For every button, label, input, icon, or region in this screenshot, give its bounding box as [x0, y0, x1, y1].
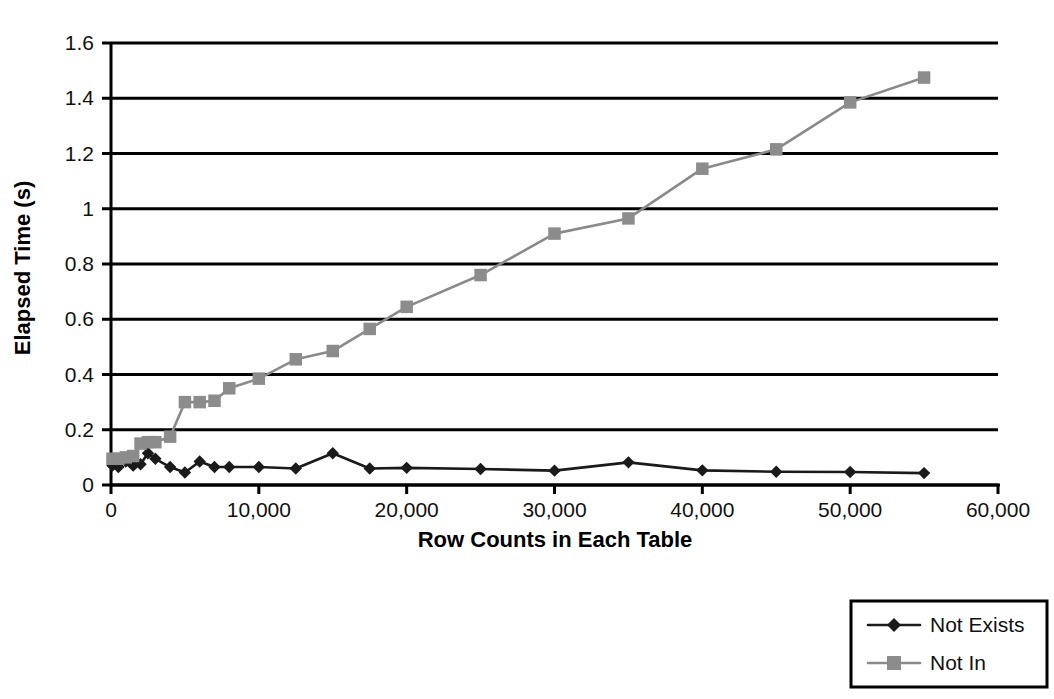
- x-tick-label: 50,000: [818, 498, 882, 521]
- x-tick-label: 30,000: [522, 498, 586, 521]
- x-tick-label: 60,000: [966, 498, 1030, 521]
- elapsed-time-line-chart: 00.20.40.60.811.21.41.6 010,00020,00030,…: [0, 0, 1054, 699]
- y-tick-label: 1.4: [65, 86, 95, 109]
- x-tick-label: 0: [105, 498, 117, 521]
- data-point-marker: [127, 450, 140, 463]
- data-point-marker: [696, 464, 708, 476]
- data-point-marker: [548, 464, 560, 476]
- data-point-marker: [149, 436, 162, 449]
- y-tick-label: 0.8: [65, 252, 94, 275]
- data-series: [106, 71, 930, 479]
- data-point-marker: [918, 467, 930, 479]
- data-point-marker: [290, 462, 302, 474]
- y-tick-label: 0.2: [65, 418, 94, 441]
- series-not-exists: [106, 447, 930, 479]
- data-point-marker: [770, 143, 783, 156]
- data-point-marker: [696, 162, 709, 175]
- data-point-marker: [327, 447, 339, 459]
- x-axis-tick-labels: 010,00020,00030,00040,00050,00060,000: [105, 498, 1030, 521]
- chart-legend: Not ExistsNot In: [851, 601, 1047, 687]
- data-point-marker: [290, 353, 303, 366]
- data-point-marker: [474, 463, 486, 475]
- data-point-marker: [179, 396, 192, 409]
- data-point-marker: [474, 269, 487, 282]
- gridlines: [111, 43, 998, 485]
- data-point-marker: [400, 301, 413, 314]
- legend-square-icon: [887, 656, 901, 670]
- y-axis-title: Elapsed Time (s): [10, 181, 35, 355]
- y-tick-label: 0.4: [65, 363, 95, 386]
- series-path: [112, 453, 924, 473]
- data-point-marker: [223, 461, 235, 473]
- y-tick-label: 0: [82, 473, 94, 496]
- data-point-marker: [844, 96, 857, 109]
- x-tick-label: 20,000: [375, 498, 439, 521]
- data-point-marker: [364, 462, 376, 474]
- data-point-marker: [770, 466, 782, 478]
- data-point-marker: [400, 462, 412, 474]
- series-not-in: [106, 71, 930, 465]
- y-axis-tick-labels: 00.20.40.60.811.21.41.6: [65, 31, 95, 496]
- x-tick-label: 10,000: [227, 498, 291, 521]
- legend-label: Not Exists: [930, 613, 1025, 636]
- data-point-marker: [327, 345, 340, 358]
- y-tick-label: 0.6: [65, 307, 94, 330]
- data-point-marker: [208, 461, 220, 473]
- series-path: [112, 78, 924, 459]
- data-point-marker: [363, 323, 376, 336]
- data-point-marker: [193, 396, 206, 409]
- legend-label: Not In: [930, 651, 986, 674]
- y-tick-label: 1.6: [65, 31, 94, 54]
- data-point-marker: [622, 456, 634, 468]
- data-point-marker: [208, 394, 221, 407]
- data-point-marker: [622, 212, 635, 225]
- data-point-marker: [844, 466, 856, 478]
- data-point-marker: [164, 430, 177, 443]
- x-axis-title: Row Counts in Each Table: [418, 527, 693, 552]
- data-point-marker: [164, 461, 176, 473]
- y-tick-label: 1.2: [65, 142, 94, 165]
- data-point-marker: [253, 461, 265, 473]
- x-tick-label: 40,000: [670, 498, 734, 521]
- y-tick-label: 1: [82, 197, 94, 220]
- data-point-marker: [548, 227, 561, 240]
- data-point-marker: [223, 382, 236, 395]
- data-point-marker: [918, 71, 931, 84]
- data-point-marker: [253, 372, 265, 385]
- chart-container: 00.20.40.60.811.21.41.6 010,00020,00030,…: [0, 0, 1054, 699]
